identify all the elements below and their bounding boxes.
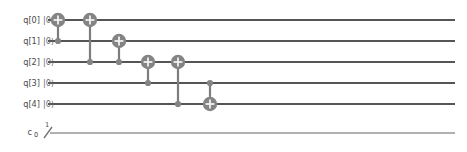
classical-register-index: 0 xyxy=(34,131,38,139)
control-dot-4[interactable] xyxy=(175,101,181,107)
qubit-label-q2: q[2] xyxy=(23,57,40,67)
qubit-initial-state-q4: |0⟩ xyxy=(43,99,54,109)
control-dot-2[interactable] xyxy=(116,59,122,65)
control-dot-0[interactable] xyxy=(55,38,61,44)
qubit-label-q4: q[4] xyxy=(23,99,40,109)
quantum-circuit-diagram: q[0]|0⟩q[1]|0⟩q[2]|0⟩q[3]|0⟩q[4]|0⟩c01 xyxy=(0,0,467,152)
circuit-canvas: q[0]|0⟩q[1]|0⟩q[2]|0⟩q[3]|0⟩q[4]|0⟩c01 xyxy=(0,0,467,152)
qubit-initial-state-q2: |0⟩ xyxy=(43,57,54,67)
qubit-initial-state-q3: |0⟩ xyxy=(43,78,54,88)
control-dot-3[interactable] xyxy=(145,80,151,86)
classical-register-width: 1 xyxy=(45,121,49,129)
qubit-label-q1: q[1] xyxy=(23,36,40,46)
qubit-label-q3: q[3] xyxy=(23,78,40,88)
qubit-initial-state-q1: |0⟩ xyxy=(43,36,54,46)
control-dot-1[interactable] xyxy=(87,59,93,65)
classical-register-label: c xyxy=(27,127,32,137)
qubit-label-q0: q[0] xyxy=(23,15,40,25)
control-dot-5[interactable] xyxy=(207,80,213,86)
